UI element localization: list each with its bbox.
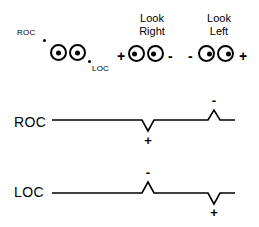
loc-deflection-2-sign: + [208, 206, 220, 219]
left-eye-center [69, 44, 86, 61]
roc-trace-label: ROC [14, 114, 46, 130]
look-left-right-polarity: + [239, 49, 247, 63]
look-right-heading-line2: Right [117, 25, 187, 38]
look-right-diagram: Look Right + - [117, 12, 187, 74]
look-right-left-eye-pupil [151, 51, 156, 56]
look-right-right-polarity: - [168, 49, 173, 63]
roc-deflection-1-sign: + [142, 134, 154, 147]
loc-deflection-1-sign: - [142, 166, 154, 179]
look-right-right-eye-pupil [132, 51, 137, 56]
roc-electrode-dot [43, 39, 46, 42]
look-right-right-eye [128, 45, 145, 62]
roc-trace-row: ROC + - [0, 92, 259, 150]
look-right-heading-line1: Look [117, 12, 187, 25]
look-right-left-polarity: + [117, 49, 125, 63]
loc-trace-row: LOC - + [0, 162, 259, 220]
look-left-heading-line1: Look [187, 12, 251, 25]
look-right-left-eye [147, 45, 164, 62]
right-eye-center [50, 44, 67, 61]
look-left-diagram: Look Left - + [187, 12, 257, 74]
look-left-right-eye-pupil [207, 51, 212, 56]
look-left-left-eye-pupil [226, 51, 231, 56]
straight-ahead-eye-diagram: ROC LOC [14, 26, 114, 80]
look-left-heading-line2: Left [187, 25, 251, 38]
look-left-heading: Look Left [187, 12, 251, 38]
left-eye-pupil [75, 50, 80, 55]
loc-electrode-dot [88, 60, 91, 63]
right-eye-pupil [56, 50, 61, 55]
roc-electrode-label: ROC [17, 28, 35, 37]
loc-trace-label: LOC [14, 184, 44, 200]
look-left-left-eye [217, 45, 234, 62]
look-left-right-eye [198, 45, 215, 62]
eog-eye-movement-figure: ROC LOC Look Right + - Look Left [0, 0, 259, 227]
loc-electrode-label: LOC [92, 64, 109, 73]
roc-deflection-2-sign: - [208, 94, 220, 107]
look-left-left-polarity: - [188, 49, 193, 63]
look-right-heading: Look Right [117, 12, 187, 38]
